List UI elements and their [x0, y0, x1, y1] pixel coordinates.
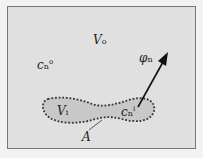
arrowhead-icon [158, 52, 168, 66]
flux-label: φn [139, 51, 153, 65]
inner-concentration-label: cni [121, 105, 135, 119]
inner-volume-label: Vi [57, 104, 68, 118]
area-pointer [89, 120, 102, 130]
outer-volume-label: Vo [93, 33, 107, 47]
diagram-canvas [0, 0, 203, 158]
area-label: A [82, 130, 91, 144]
outer-concentration-label: cno [37, 58, 53, 72]
